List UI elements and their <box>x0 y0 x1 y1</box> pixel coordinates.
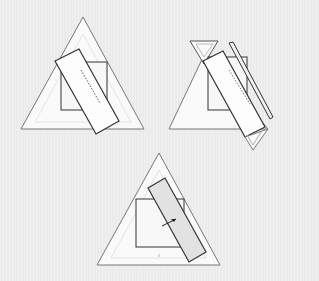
step-3-panel <box>97 153 220 265</box>
step-1-panel <box>21 17 144 134</box>
step-2-panel <box>169 41 273 150</box>
diagram-canvas <box>0 0 289 281</box>
